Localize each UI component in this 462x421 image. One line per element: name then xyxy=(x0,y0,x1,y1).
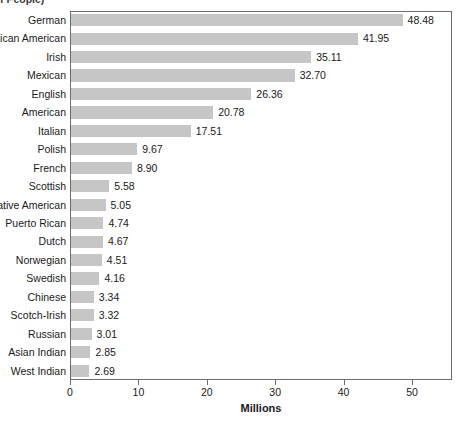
bar xyxy=(71,88,251,100)
category-label: French xyxy=(33,159,66,177)
x-tick-mark xyxy=(138,380,139,385)
category-label: Norwegian xyxy=(16,251,66,269)
category-label: Mexican xyxy=(27,66,66,84)
bar-value-label: 17.51 xyxy=(196,122,222,140)
table-row: African American41.95 xyxy=(0,29,462,47)
bar-value-label: 35.11 xyxy=(316,48,342,66)
table-row: American20.78 xyxy=(0,103,462,121)
table-row: French8.90 xyxy=(0,159,462,177)
table-row: Norwegian4.51 xyxy=(0,251,462,269)
bar-value-label: 8.90 xyxy=(137,159,157,177)
bar xyxy=(71,236,103,248)
x-tick-label: 40 xyxy=(338,386,350,398)
category-label: Asian Indian xyxy=(8,343,66,361)
table-row: Native American5.05 xyxy=(0,196,462,214)
category-label: Chinese xyxy=(27,288,66,306)
bar xyxy=(71,328,92,340)
x-tick-mark xyxy=(275,380,276,385)
x-tick-label: 10 xyxy=(133,386,145,398)
bar-value-label: 3.34 xyxy=(99,288,119,306)
bar xyxy=(71,69,295,81)
table-row: West Indian2.69 xyxy=(0,362,462,380)
category-label: Swedish xyxy=(26,269,66,287)
x-tick-label: 20 xyxy=(201,386,213,398)
table-row: Polish9.67 xyxy=(0,140,462,158)
category-label: Scotch-Irish xyxy=(11,306,66,324)
table-row: Puerto Rican4.74 xyxy=(0,214,462,232)
table-row: English26.36 xyxy=(0,85,462,103)
table-row: German48.48 xyxy=(0,11,462,29)
bar xyxy=(71,14,403,26)
bar xyxy=(71,143,137,155)
category-label: American xyxy=(22,103,66,121)
x-tick-mark xyxy=(412,380,413,385)
category-label: Polish xyxy=(37,140,66,158)
category-label: German xyxy=(28,11,66,29)
bar-value-label: 2.69 xyxy=(94,362,114,380)
table-row: Italian17.51 xyxy=(0,122,462,140)
horizontal-bar-chart: German48.48African American41.95Irish35.… xyxy=(0,0,462,421)
bar xyxy=(71,217,103,229)
x-tick-mark xyxy=(344,380,345,385)
bar xyxy=(71,291,94,303)
table-row: Dutch4.67 xyxy=(0,232,462,250)
bar-value-label: 32.70 xyxy=(300,66,326,84)
bar xyxy=(71,365,89,377)
bar-value-label: 4.16 xyxy=(104,269,124,287)
category-label: Russian xyxy=(28,325,66,343)
table-row: Mexican32.70 xyxy=(0,66,462,84)
category-label: Dutch xyxy=(39,232,66,250)
bar xyxy=(71,199,106,211)
bar-value-label: 41.95 xyxy=(363,29,389,47)
bar xyxy=(71,51,311,63)
x-axis-title: Millions xyxy=(70,402,452,414)
category-label: Irish xyxy=(46,48,66,66)
table-row: Scottish5.58 xyxy=(0,177,462,195)
bar-value-label: 5.58 xyxy=(114,177,134,195)
table-row: Irish35.11 xyxy=(0,48,462,66)
bar-value-label: 3.32 xyxy=(99,306,119,324)
category-label: English xyxy=(32,85,66,103)
bar-value-label: 4.74 xyxy=(108,214,128,232)
bar xyxy=(71,254,102,266)
table-row: Swedish4.16 xyxy=(0,269,462,287)
bar-rows-container: German48.48African American41.95Irish35.… xyxy=(0,11,462,380)
bar-value-label: 3.01 xyxy=(97,325,117,343)
category-label: Native American xyxy=(0,196,66,214)
bar-value-label: 9.67 xyxy=(142,140,162,158)
bar xyxy=(71,162,132,174)
category-label: African American xyxy=(0,29,66,47)
x-axis: Millions 01020304050 xyxy=(70,380,452,421)
bar-value-label: 2.85 xyxy=(95,343,115,361)
table-row: Asian Indian2.85 xyxy=(0,343,462,361)
bar xyxy=(71,272,99,284)
bar xyxy=(71,106,213,118)
category-label: Puerto Rican xyxy=(5,214,66,232)
bar xyxy=(71,33,358,45)
x-tick-label: 30 xyxy=(269,386,281,398)
x-tick-label: 0 xyxy=(67,386,73,398)
bar-value-label: 48.48 xyxy=(408,11,434,29)
bar-value-label: 4.51 xyxy=(107,251,127,269)
table-row: Russian3.01 xyxy=(0,325,462,343)
x-tick-mark xyxy=(207,380,208,385)
bar xyxy=(71,309,94,321)
bar xyxy=(71,346,90,358)
bar-value-label: 5.05 xyxy=(111,196,131,214)
x-tick-label: 50 xyxy=(406,386,418,398)
category-label: Italian xyxy=(38,122,66,140)
bar-value-label: 26.36 xyxy=(256,85,282,103)
category-label: West Indian xyxy=(11,362,66,380)
table-row: Chinese3.34 xyxy=(0,288,462,306)
bar xyxy=(71,125,191,137)
bar xyxy=(71,180,109,192)
category-label: Scottish xyxy=(29,177,66,195)
table-row: Scotch-Irish3.32 xyxy=(0,306,462,324)
x-tick-mark xyxy=(70,380,71,385)
bar-value-label: 4.67 xyxy=(108,232,128,250)
bar-value-label: 20.78 xyxy=(218,103,244,121)
